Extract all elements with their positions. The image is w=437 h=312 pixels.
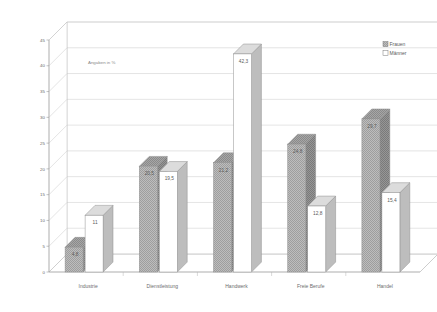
bar-value-label-maenner: 11	[93, 220, 98, 225]
bar-value-label-maenner: 12,8	[313, 211, 323, 216]
legend-swatch-maenner	[383, 51, 388, 56]
x-axis-category-labels: IndustrieDienstleistungHandwerkFreie Ber…	[79, 272, 393, 289]
chart-annotation: Angaben in %	[88, 60, 115, 65]
y-tick-label: 35	[40, 89, 45, 94]
x-axis-category-label: Industrie	[79, 283, 98, 289]
y-tick-label: 10	[40, 218, 45, 223]
y-tick-label: 5	[43, 244, 46, 249]
x-axis-category-label: Handwerk	[225, 283, 248, 289]
bar-value-label-maenner: 15,4	[387, 198, 397, 203]
bar-value-label-maenner: 19,5	[165, 176, 175, 181]
y-tick-label: 30	[40, 115, 45, 120]
bar-maenner	[308, 196, 336, 272]
bar-value-label-maenner: 42,3	[239, 59, 249, 64]
x-axis-category-label: Dienstleistung	[147, 283, 179, 289]
bar-maenner	[234, 44, 262, 272]
y-tick-label: 45	[40, 38, 45, 43]
y-tick-label: 40	[40, 63, 45, 68]
x-axis-category-label: Handel	[377, 283, 393, 289]
y-tick-label: 25	[40, 141, 45, 146]
y-tick-label: 20	[40, 167, 45, 172]
legend-label-maenner: Männer	[390, 50, 407, 56]
legend-swatch-frauen	[383, 42, 388, 47]
bar-value-label-frauen: 24,8	[293, 149, 303, 154]
y-tick-label: 0	[43, 270, 46, 275]
y-tick-label: 15	[40, 192, 45, 197]
chart-container: 051015202530354045 IndustrieDienstleistu…	[0, 0, 437, 312]
y-axis-ticks: 051015202530354045	[40, 38, 49, 275]
bar-maenner	[85, 205, 113, 272]
grouped-3d-bar-chart: 051015202530354045 IndustrieDienstleistu…	[0, 0, 437, 312]
bar-maenner	[382, 183, 410, 272]
bar-value-label-frauen: 29,7	[367, 124, 377, 129]
bar-value-label-frauen: 21,2	[219, 168, 229, 173]
bar-value-label-frauen: 20,5	[145, 171, 155, 176]
legend-label-frauen: Frauen	[390, 41, 406, 47]
x-axis-category-label: Freie Berufe	[297, 283, 325, 289]
bar-value-label-frauen: 4,8	[72, 252, 79, 257]
